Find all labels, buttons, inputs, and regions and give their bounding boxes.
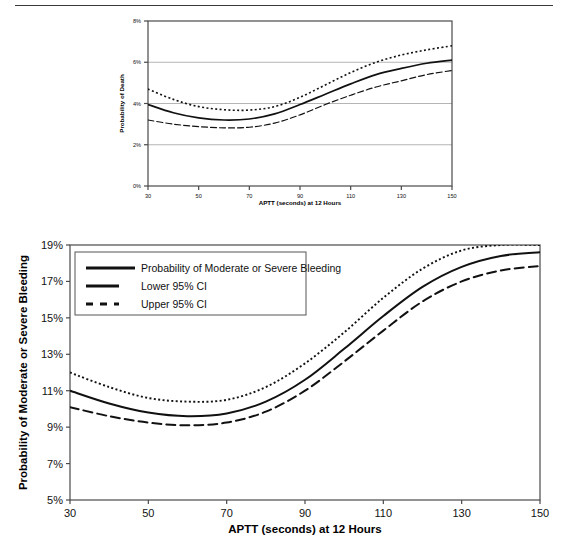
- x-tick-label: 110: [346, 193, 355, 199]
- x-tick-label: 90: [297, 193, 303, 199]
- y-axis-title: Probability of Moderate or Severe Bleedi…: [17, 255, 29, 490]
- y-tick-label: 5%: [47, 494, 63, 506]
- y-tick-label: 7%: [47, 458, 63, 470]
- y-tick-label: 15%: [41, 312, 63, 324]
- x-tick-label: 150: [447, 193, 456, 199]
- x-tick-label: 70: [221, 507, 233, 519]
- y-tick-label: 17%: [41, 275, 63, 287]
- x-tick-label: 130: [397, 193, 406, 199]
- y-tick-label: 13%: [41, 348, 63, 360]
- x-tick-label: 70: [246, 193, 252, 199]
- x-tick-label: 30: [64, 507, 76, 519]
- y-tick-label: 0%: [133, 183, 141, 189]
- figure-probability-of-death: 0%2%4%6%8%30507090110130150APTT (seconds…: [0, 12, 568, 217]
- series-line-dashed: [148, 71, 452, 128]
- series-line-dotted: [148, 46, 452, 111]
- y-tick-label: 11%: [42, 385, 63, 397]
- legend-label: Lower 95% CI: [141, 280, 207, 292]
- x-tick-label: 110: [375, 507, 393, 519]
- x-axis-title: APTT (seconds) at 12 Hours: [259, 199, 342, 206]
- figure-probability-of-bleeding: 5%7%9%11%13%15%17%19%30507090110130150AP…: [0, 228, 568, 547]
- x-tick-label: 90: [299, 507, 311, 519]
- y-tick-label: 4%: [133, 101, 141, 107]
- y-tick-label: 19%: [41, 239, 63, 251]
- chart-legend: Probability of Moderate or Severe Bleedi…: [75, 252, 341, 315]
- y-tick-label: 2%: [133, 142, 141, 148]
- x-tick-label: 30: [145, 193, 151, 199]
- header-divider-rule: [15, 5, 553, 6]
- chart-top-svg: 0%2%4%6%8%30507090110130150APTT (seconds…: [0, 12, 568, 217]
- y-axis-title: Probability of Death: [118, 74, 125, 133]
- x-tick-label: 130: [452, 507, 470, 519]
- legend-label: Upper 95% CI: [141, 298, 207, 310]
- x-tick-label: 50: [196, 193, 202, 199]
- x-tick-label: 150: [531, 507, 549, 519]
- x-axis-title: APTT (seconds) at 12 Hours: [228, 523, 381, 535]
- y-tick-label: 8%: [133, 18, 141, 24]
- x-tick-label: 50: [142, 507, 154, 519]
- series-group: [148, 46, 452, 128]
- y-tick-label: 9%: [47, 421, 63, 433]
- chart-bottom-svg: 5%7%9%11%13%15%17%19%30507090110130150AP…: [0, 228, 568, 547]
- series-line-solid: [148, 60, 452, 120]
- legend-label: Probability of Moderate or Severe Bleedi…: [141, 262, 341, 274]
- y-tick-label: 6%: [133, 59, 141, 65]
